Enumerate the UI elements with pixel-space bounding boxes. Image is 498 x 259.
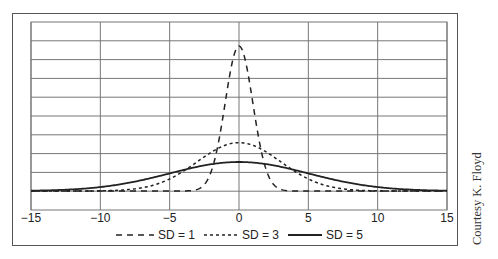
x-tick-label: 5 <box>305 211 312 225</box>
legend-label: SD = 3 <box>242 228 279 242</box>
x-tick-label: 0 <box>236 211 243 225</box>
plot-area <box>0 0 498 259</box>
grid-lines <box>31 22 447 210</box>
legend-item-sd5: SD = 5 <box>287 228 363 242</box>
legend: SD = 1 SD = 3 SD = 5 <box>0 227 478 243</box>
x-tick-label: 15 <box>440 211 453 225</box>
x-tick-label: −15 <box>21 211 41 225</box>
legend-label: SD = 5 <box>326 228 363 242</box>
x-tick-label: 10 <box>371 211 384 225</box>
image-credit: Courtesy K. Floyd <box>470 152 485 245</box>
solid-line-swatch-icon <box>287 231 323 239</box>
dotted-line-swatch-icon <box>203 231 239 239</box>
x-tick-label: −10 <box>90 211 110 225</box>
legend-item-sd1: SD = 1 <box>115 228 195 242</box>
legend-label: SD = 1 <box>158 228 195 242</box>
figure: −15−10−5051015 SD = 1 SD = 3 SD = 5 Cour… <box>0 0 498 259</box>
dashed-line-swatch-icon <box>115 231 155 239</box>
legend-item-sd3: SD = 3 <box>203 228 279 242</box>
x-tick-label: −5 <box>163 211 177 225</box>
